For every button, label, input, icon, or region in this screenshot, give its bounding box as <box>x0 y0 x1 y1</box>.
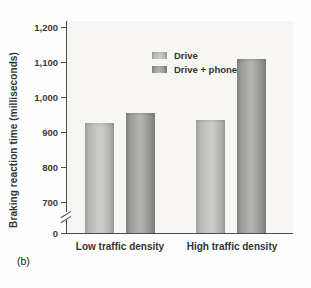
plot-area: Drive Drive + phone <box>66 21 293 234</box>
y-tick-mark <box>61 132 66 133</box>
legend-item-drive-phone: Drive + phone <box>152 66 237 73</box>
legend-swatch-drive-phone <box>152 66 167 73</box>
category-label-high-traffic: High traffic density <box>182 241 282 254</box>
legend-label-drive: Drive <box>174 50 198 61</box>
y-tick-mark <box>61 27 66 28</box>
y-tick-label-700: 700 <box>24 198 58 207</box>
y-tick-mark <box>61 202 66 203</box>
category-label-low-traffic: Low traffic density <box>70 241 170 254</box>
legend-label-drive-phone: Drive + phone <box>174 64 237 75</box>
y-tick-label-1-100: 1,100 <box>24 58 58 67</box>
y-tick-mark <box>61 233 66 234</box>
y-tick-mark <box>61 167 66 168</box>
y-tick-mark <box>61 97 66 98</box>
bar-drive-phone-low-traffic-density <box>126 113 156 233</box>
y-tick-label-0: 0 <box>24 229 58 238</box>
bar-drive-phone-high-traffic-density <box>237 59 267 234</box>
bar-chart-figure: Braking reaction time (milliseconds) Dri… <box>0 0 311 288</box>
y-tick-label-800: 800 <box>24 163 58 172</box>
y-axis-title: Braking reaction time (milliseconds) <box>8 40 22 240</box>
bar-drive-high-traffic-density <box>196 120 226 233</box>
y-tick-mark <box>61 62 66 63</box>
legend-item-drive: Drive <box>152 52 237 59</box>
legend-swatch-drive <box>152 52 167 59</box>
y-tick-label-900: 900 <box>24 128 58 137</box>
panel-label: (b) <box>17 255 30 267</box>
bar-drive-low-traffic-density <box>85 123 115 233</box>
legend: Drive Drive + phone <box>152 52 237 80</box>
y-tick-label-1-000: 1,000 <box>24 93 58 102</box>
y-tick-label-1-200: 1,200 <box>24 23 58 32</box>
